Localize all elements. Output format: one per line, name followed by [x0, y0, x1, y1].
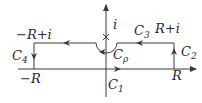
- label-c4: C4: [12, 48, 28, 65]
- label-c1: C1: [108, 77, 124, 94]
- label-c3: C3: [134, 23, 150, 40]
- label-neg-r: −R: [20, 71, 41, 86]
- label-neg-r-plus-i: −R+i: [16, 27, 52, 42]
- label-i: i: [113, 17, 117, 32]
- label-c-rho: Cρ: [113, 47, 129, 64]
- label-c2: C2: [181, 44, 197, 61]
- label-r-plus-i: R+i: [154, 21, 180, 36]
- arrow-c-rho-left-icon: [99, 49, 105, 55]
- contour-diagram: −R+i C4 −R i C3 R+i C2 Cρ R C1: [0, 0, 202, 103]
- contour: [34, 43, 174, 69]
- direction-arrows: [31, 40, 177, 72]
- label-r: R: [171, 68, 182, 83]
- axes: [18, 5, 196, 97]
